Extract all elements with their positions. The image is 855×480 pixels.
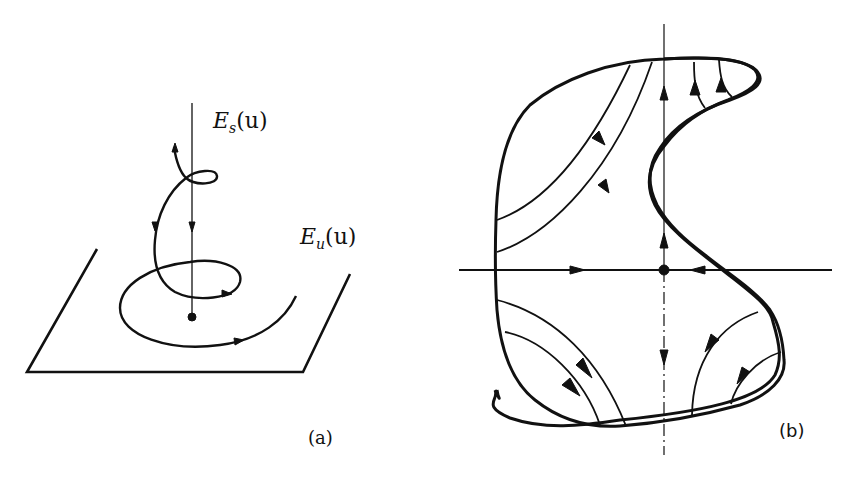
panel-b — [459, 24, 832, 455]
unstable-plane — [27, 249, 350, 372]
flow-arrow-icon — [592, 131, 605, 145]
region-boundary — [493, 58, 779, 426]
axis-arrow-right-icon — [570, 266, 585, 274]
stable-axis-arrow-icon — [189, 222, 195, 232]
axis-arrow-up-icon — [660, 233, 668, 248]
axis-arrow-left-icon — [690, 266, 705, 274]
label-sub: u — [316, 236, 325, 252]
figure-canvas — [0, 0, 855, 480]
label-arg: (u) — [325, 224, 356, 249]
caption-b: (b) — [779, 420, 804, 441]
label-main: E — [213, 108, 229, 133]
axis-arrow-up-icon — [660, 86, 668, 100]
flow-arrow-icon — [705, 334, 719, 352]
saddle-point — [659, 265, 669, 275]
label-main: E — [300, 224, 316, 249]
stable-manifold-label: Es(u) — [213, 108, 268, 136]
spiral-arrow-icon — [222, 290, 232, 297]
unstable-manifold-label: Eu(u) — [300, 224, 356, 252]
fixed-point-a — [188, 313, 196, 321]
spiral-trajectory — [120, 147, 296, 347]
flow-arrow-icon — [737, 367, 750, 384]
flow-arrow-icon — [690, 80, 700, 95]
flow-arrow-icon — [598, 179, 609, 193]
flow-line — [497, 65, 630, 220]
flow-line — [692, 312, 758, 415]
axis-arrow-down-icon — [660, 350, 668, 365]
label-arg: (u) — [236, 108, 267, 133]
caption-a: (a) — [308, 427, 333, 448]
